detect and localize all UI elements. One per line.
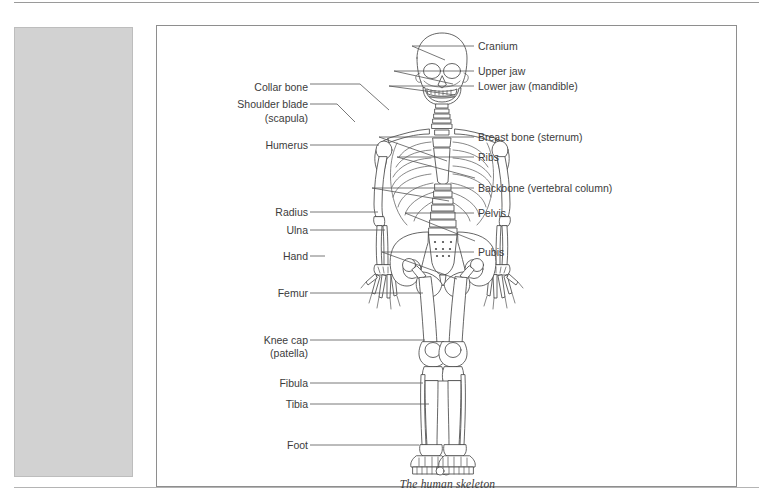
label-fibula: Fibula bbox=[157, 377, 308, 389]
figure-panel: .bone{fill:#ffffff;stroke:#4a4a4a;stroke… bbox=[156, 25, 737, 487]
image-placeholder-block bbox=[14, 27, 133, 477]
left-arm-group bbox=[361, 157, 400, 309]
label-patella: (patella) bbox=[157, 347, 308, 359]
right-arm-group bbox=[484, 157, 523, 309]
label-lower-jaw: Lower jaw (mandible) bbox=[478, 80, 578, 92]
leader-collar-bone bbox=[310, 84, 389, 110]
label-knee-cap: Knee cap bbox=[157, 334, 308, 346]
label-tibia: Tibia bbox=[157, 398, 308, 410]
figure-caption: The human skeleton bbox=[157, 478, 738, 490]
label-collar-bone: Collar bone bbox=[157, 81, 308, 93]
leader-shoulder-blade bbox=[310, 104, 355, 122]
leader-backbone bbox=[372, 188, 474, 201]
left-leg-group bbox=[403, 259, 451, 476]
label-hand: Hand bbox=[157, 250, 308, 262]
cervical-spine-group bbox=[432, 104, 452, 129]
label-pelvis: Pelvis bbox=[478, 207, 506, 219]
skull-group bbox=[416, 33, 469, 105]
label-ulna: Ulna bbox=[157, 224, 308, 236]
label-humerus: Humerus bbox=[157, 139, 308, 151]
label-cranium: Cranium bbox=[478, 40, 518, 52]
label-upper-jaw: Upper jaw bbox=[478, 65, 525, 77]
right-leg-group bbox=[436, 259, 484, 476]
label-radius: Radius bbox=[157, 206, 308, 218]
label-breast-bone: Breast bone (sternum) bbox=[478, 131, 582, 143]
page-root: .bone{fill:#ffffff;stroke:#4a4a4a;stroke… bbox=[0, 0, 772, 501]
label-ribs: Ribs bbox=[478, 151, 499, 163]
label-pubis: Pubis bbox=[478, 246, 504, 258]
label-scapula: (scapula) bbox=[157, 112, 308, 124]
label-foot: Foot bbox=[157, 439, 308, 451]
top-divider-rule bbox=[14, 2, 759, 3]
label-backbone: Backbone (vertebral column) bbox=[478, 182, 612, 194]
sternum-group bbox=[433, 138, 451, 186]
label-femur: Femur bbox=[157, 287, 308, 299]
label-shoulder-blade: Shoulder blade bbox=[157, 98, 308, 110]
